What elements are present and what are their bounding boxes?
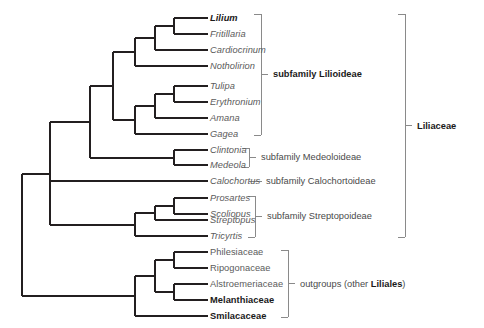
taxon-label-ripogonaceae: Ripogonaceae [210,263,271,273]
taxon-label-tricyrtis: Tricyrtis [210,231,242,241]
annotation-label-subfamily-lilioideae: subfamily Lilioideae [273,69,362,79]
taxon-label-clintonia: Clintonia [210,145,247,155]
annotation-label-outgroups: outgroups (other Liliales) [300,279,405,289]
taxon-label-streptopus: Streptopus [210,215,255,225]
taxon-label-smilacaceae: Smilacaceae [210,311,266,321]
taxon-label-gagea: Gagea [210,129,238,139]
taxon-label-erythronium: Erythronium [210,97,261,107]
annotation-label-liliaceae: Liliaceae [417,121,456,131]
taxon-label-medeola: Medeola [210,160,246,170]
taxon-label-philesiaceae: Philesiaceae [210,247,263,257]
taxon-label-amana: Amana [210,113,240,123]
phylogenetic-tree-figure: LiliumFritillariaCardiocrinumNotholirion… [0,0,484,328]
taxon-label-fritillaria: Fritillaria [210,29,246,39]
taxon-label-notholirion: Notholirion [210,61,255,71]
taxon-label-melanthiaceae: Melanthiaceae [210,295,274,305]
taxon-label-prosartes: Prosartes [210,193,250,203]
taxon-label-cardiocrinum: Cardiocrinum [210,45,266,55]
taxon-label-tulipa: Tulipa [210,81,235,91]
annotation-label-subfamily-medeoloideae: subfamily Medeoloideae [261,152,361,162]
annotation-label-subfamily-calochortoideae: subfamily Calochortoideae [266,176,376,186]
taxon-label-alstroemeriaceae: Alstroemeriaceae [210,279,283,289]
annotation-emphasis: Liliales [371,279,403,289]
taxon-label-calochortus: Calochortus [210,176,260,186]
taxon-label-lilium: Lilium [210,13,238,23]
annotation-label-subfamily-streptopoideae: subfamily Streptopoideae [267,211,372,221]
